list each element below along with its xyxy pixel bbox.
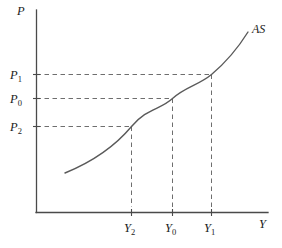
as-curve-figure: AS P Y P1 P0 P2 Y2 Y0 Y1: [0, 0, 282, 248]
output-label-y0: Y0: [165, 221, 176, 237]
price-leader-lines: [37, 75, 212, 127]
output-leader-lines: [132, 75, 212, 208]
price-label-p2: P2: [9, 120, 22, 136]
output-label-y2: Y2: [124, 221, 135, 237]
price-label-p0: P0: [9, 92, 22, 108]
price-label-p1: P1: [9, 68, 22, 84]
curve-label-as: AS: [251, 22, 265, 36]
diagram-canvas: AS P Y P1 P0 P2 Y2 Y0 Y1: [0, 0, 282, 248]
output-label-y1: Y1: [204, 221, 215, 237]
x-axis-label: Y: [259, 217, 268, 231]
aggregate-supply-curve: [65, 32, 248, 173]
axes-group: [36, 10, 268, 213]
y-axis-label: P: [16, 4, 25, 18]
axis-ticks: [33, 75, 212, 217]
